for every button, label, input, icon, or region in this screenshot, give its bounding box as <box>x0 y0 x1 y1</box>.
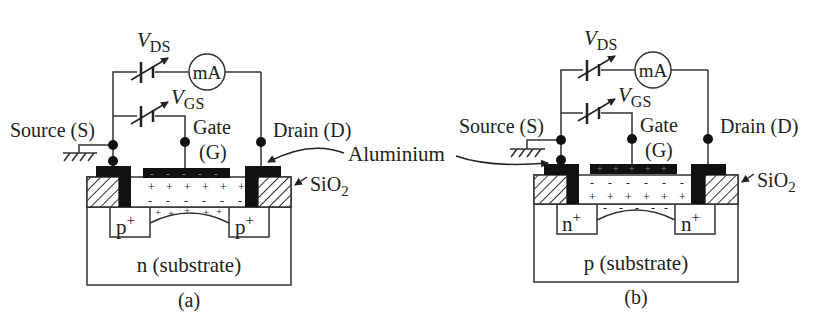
sio2-hatch-left-a <box>87 177 119 207</box>
svg-text:+: + <box>645 163 651 174</box>
svg-text:-: - <box>166 194 170 208</box>
drain-terminal-dot-b <box>703 134 713 144</box>
svg-text:+: + <box>661 163 667 174</box>
drain-terminal-dot-a <box>256 137 266 147</box>
ammeter-label-b: mA <box>639 60 668 81</box>
source-contact-dot-a <box>108 156 118 166</box>
source-contact-dot-b <box>556 155 566 165</box>
svg-text:-: - <box>148 194 152 208</box>
svg-text:+: + <box>607 190 614 204</box>
svg-text:+: + <box>629 163 635 174</box>
substrate-label-b: p (substrate) <box>584 251 688 275</box>
vds-label-a: VDS <box>137 28 170 55</box>
svg-text:+: + <box>661 190 668 204</box>
svg-text:+: + <box>166 180 173 194</box>
source-label-a: Source (S) <box>10 119 95 142</box>
svg-text:+: + <box>184 180 191 194</box>
caption-b: (b) <box>624 286 647 309</box>
mosfet-diagram: n (substrate) p+ p+ + + + + + + + + + + … <box>0 0 816 326</box>
svg-text:-: - <box>220 194 224 208</box>
oxide-label-a: SiO2 <box>310 173 349 199</box>
source-label-b: Source (S) <box>459 115 544 138</box>
sio2-hatch-left-b <box>534 175 567 204</box>
gate-label-b: Gate <box>640 114 678 136</box>
oxide-arrow-b <box>742 174 754 182</box>
svg-text:-: - <box>202 194 206 208</box>
gate-terminal-dot-a <box>180 137 190 147</box>
ammeter-label-a: mA <box>193 62 222 83</box>
svg-text:+: + <box>679 190 686 204</box>
vgs-battery-b <box>578 99 615 124</box>
substrate-label-a: n (substrate) <box>137 253 241 277</box>
vds-battery-b <box>578 56 615 81</box>
svg-text:+: + <box>613 163 619 174</box>
aluminium-arrow-b <box>456 156 548 164</box>
svg-text:+: + <box>148 180 155 194</box>
gate-label-g-a: (G) <box>199 141 227 164</box>
panel-b: p (substrate) n+ n+ - - - - - - - - - - … <box>459 26 798 309</box>
svg-text:-: - <box>182 167 186 179</box>
oxide-arrow-a <box>295 177 307 185</box>
drain-label-b: Drain (D) <box>720 115 798 138</box>
svg-text:-: - <box>680 176 684 190</box>
gate-label-a: Gate <box>193 116 231 138</box>
svg-text:-: - <box>184 194 188 208</box>
svg-text:-: - <box>166 167 170 179</box>
svg-text:+: + <box>155 206 161 218</box>
source-terminal-dot-a <box>108 140 118 150</box>
svg-text:-: - <box>608 176 612 190</box>
sio2-hatch-right-a <box>258 177 291 207</box>
panel-a: n (substrate) p+ p+ + + + + + + + + + + … <box>10 28 351 312</box>
source-terminal-dot-b <box>556 135 566 145</box>
svg-text:-: - <box>590 176 594 190</box>
aluminium-label: Aluminium <box>348 142 445 166</box>
gate-label-g-b: (G) <box>645 139 673 162</box>
caption-a: (a) <box>178 289 200 312</box>
svg-text:+: + <box>220 180 227 194</box>
drain-label-a: Drain (D) <box>273 119 351 142</box>
svg-text:-: - <box>150 167 154 179</box>
svg-text:+: + <box>202 180 209 194</box>
vgs-battery-a <box>131 102 168 127</box>
svg-text:-: - <box>662 176 666 190</box>
oxide-label-b: SiO2 <box>757 169 796 195</box>
sio2-hatch-right-b <box>705 175 738 204</box>
svg-text:-: - <box>214 167 218 179</box>
svg-text:-: - <box>626 176 630 190</box>
svg-text:-: - <box>238 194 242 208</box>
vds-label-b: VDS <box>584 26 617 53</box>
aluminium-arrow-a <box>268 148 344 162</box>
gate-terminal-dot-b <box>627 134 637 144</box>
svg-text:-: - <box>198 167 202 179</box>
svg-text:+: + <box>625 190 632 204</box>
vds-battery-a <box>131 58 168 83</box>
svg-text:+: + <box>643 190 650 204</box>
svg-text:+: + <box>168 207 174 219</box>
svg-text:+: + <box>589 190 596 204</box>
svg-text:+: + <box>597 163 603 174</box>
svg-text:+: + <box>238 180 245 194</box>
svg-text:-: - <box>644 176 648 190</box>
